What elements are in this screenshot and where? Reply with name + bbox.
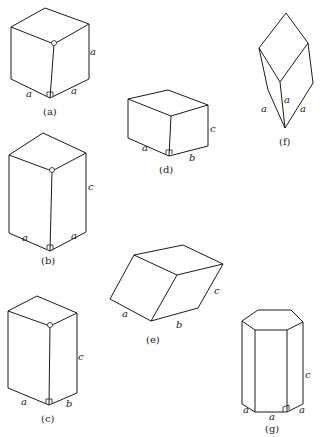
label-b-right: a [71, 230, 77, 241]
label-g-left: a [243, 404, 249, 415]
angle-marker-icon [48, 323, 53, 328]
label-g-right: a [299, 404, 305, 415]
caption-f: (f) [279, 136, 291, 147]
crystal-systems-diagram: a a a (a) c a a (b) c a b (c) c a b (d) [0, 0, 321, 437]
label-g-center: a [269, 411, 275, 422]
angle-marker-icon [52, 41, 57, 46]
label-f-left: a [261, 103, 267, 114]
caption-a: (a) [43, 106, 57, 117]
label-d-right: b [189, 152, 195, 163]
label-a-left: a [26, 88, 32, 99]
label-e-side: c [214, 285, 220, 296]
panel-g-hexagonal: c a a a (g) [242, 310, 311, 434]
panel-b-tetragonal: c a a (b) [9, 133, 94, 266]
label-b-left: a [22, 232, 28, 243]
label-e-left: a [122, 308, 128, 319]
caption-d: (d) [159, 164, 173, 175]
panel-d-box: c a b (d) [128, 90, 216, 175]
label-b-vertical: c [88, 181, 94, 192]
caption-e: (e) [146, 334, 160, 345]
label-d-left: a [142, 142, 148, 153]
caption-g: (g) [265, 423, 279, 434]
label-d-vertical: c [210, 123, 216, 134]
label-f-center: a [284, 94, 290, 105]
label-e-right: b [176, 319, 182, 330]
label-f-right: a [300, 103, 306, 114]
label-c-vertical: c [78, 351, 84, 362]
label-a-right: a [71, 85, 77, 96]
panel-c-orthorhombic: c a b (c) [8, 296, 84, 424]
label-a-vertical: a [90, 46, 96, 57]
label-c-left: a [21, 396, 27, 407]
panel-e-triclinic: a c b (e) [110, 245, 223, 345]
angle-marker-icon [50, 168, 55, 173]
label-g-vertical: c [305, 369, 311, 380]
caption-c: (c) [41, 413, 55, 424]
panel-f-rhombohedral: a a a (f) [259, 13, 313, 147]
panel-a-cube: a a a (a) [11, 8, 96, 117]
label-c-right: b [66, 398, 72, 409]
caption-b: (b) [41, 255, 55, 266]
